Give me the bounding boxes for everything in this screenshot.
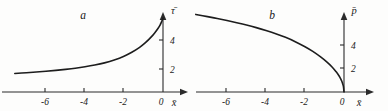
panel-a-ytick-label-1: 2 <box>170 65 175 75</box>
panel-a-y-axis-title: τ̄ <box>171 5 178 16</box>
panel-b-curve <box>196 14 344 92</box>
panel-b-xtick-label-0: -6 <box>222 97 230 107</box>
figure-container: -6 -4 -2 0 4 2 x̄ τ̄ a <box>0 0 388 111</box>
panel-a-xtick-label-2: -2 <box>119 97 127 107</box>
panel-b-letter: b <box>269 9 275 21</box>
panel-b-xtick-label-3: 0 <box>340 97 345 107</box>
panel-a-letter: a <box>80 9 86 21</box>
panel-b-x-axis-title: x̄ <box>356 97 362 108</box>
panel-b-xtick-label-1: -4 <box>261 97 269 107</box>
panel-a-x-axis-arrow <box>180 89 188 96</box>
panel-a: -6 -4 -2 0 4 2 x̄ τ̄ a <box>0 0 194 111</box>
panel-b-xtick-label-2: -2 <box>300 97 308 107</box>
panel-a-curve <box>15 18 163 73</box>
panel-a-xtick-label-1: -4 <box>80 97 88 107</box>
panel-a-x-axis-title: x̄ <box>171 97 177 108</box>
panel-b-x-axis-arrow <box>366 89 374 96</box>
panel-a-ytick-label-0: 4 <box>170 36 175 46</box>
panel-a-xtick-label-0: -6 <box>41 97 49 107</box>
panel-a-xtick-label-3: 0 <box>159 97 164 107</box>
panel-b-y-axis-title: p̄ <box>350 5 356 16</box>
panel-b-ytick-label-1: 2 <box>351 64 356 74</box>
panel-b: -6 -4 -2 0 4 2 x̄ p̄ b <box>194 0 388 111</box>
panel-b-ytick-label-0: 4 <box>351 41 356 51</box>
panel-b-y-axis-arrow <box>341 12 348 20</box>
